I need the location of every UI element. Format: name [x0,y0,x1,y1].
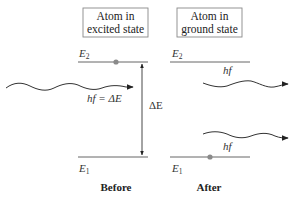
electron-ground [207,154,212,159]
before-lower-level: E1 [78,157,148,176]
before-e2-label: E2 [78,47,90,61]
after-e1-label: E1 [171,162,183,176]
outgoing-photon-2-label: hf [223,140,234,152]
electron-excited [113,59,118,64]
before-state-box: Atom in excited state [83,8,148,37]
after-state-box: Atom in ground state [177,8,242,37]
incoming-photon-label: hf = ΔE [87,92,122,104]
before-box-title-line1: Atom in [96,10,134,22]
incoming-photon: hf = ΔE [6,83,133,104]
energy-gap-arrow: ΔE [142,64,163,155]
stimulated-emission-diagram: Atom in excited state Atom in ground sta… [0,0,295,198]
delta-e-label: ΔE [149,99,163,111]
after-upper-level: E2 [170,47,250,62]
after-e2-label: E2 [171,47,183,61]
outgoing-photon-1-label: hf [223,64,234,76]
after-box-title-line1: Atom in [190,10,228,22]
before-e1-label: E1 [78,162,90,176]
after-caption: After [196,181,221,193]
before-box-title-line2: excited state [87,23,144,35]
outgoing-photon-1: hf [203,64,288,87]
after-lower-level: E1 [170,154,250,176]
after-box-title-line2: ground state [181,23,238,36]
outgoing-photon-2: hf [203,132,288,152]
before-caption: Before [101,181,132,193]
before-upper-level: E2 [78,47,148,65]
